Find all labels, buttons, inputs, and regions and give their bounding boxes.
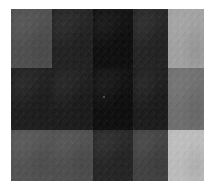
- cell-r3-c4: [133, 130, 168, 181]
- cell-r2-c1: [11, 68, 52, 130]
- cell-r2-c4: [133, 68, 168, 130]
- cell-r3-c3: [93, 130, 133, 181]
- cell-r1-c4: [133, 9, 168, 68]
- image-canvas: [0, 0, 213, 191]
- cell-r2-c5: [168, 68, 204, 130]
- cell-r3-c5: [168, 130, 204, 181]
- cell-r3-c1: [11, 130, 52, 181]
- cell-r2-c2: [52, 68, 93, 130]
- cell-r1-c5: [168, 9, 204, 68]
- cell-r1-c3: [93, 9, 133, 68]
- cell-r3-c2: [52, 130, 93, 181]
- cell-r1-c2: [52, 9, 93, 68]
- cell-r1-c1: [11, 9, 52, 68]
- cell-r2-c3: [93, 68, 133, 130]
- grayscale-block-mosaic: [11, 9, 204, 181]
